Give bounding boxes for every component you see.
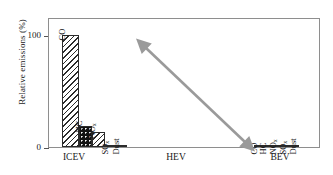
series-label-icev-sox-text: SO [100,144,110,155]
series-label-icev-sox: SOx [101,141,110,155]
emissions-bar-chart: Relative emissions (%) 100 0 CO HC NOx S… [0,0,333,175]
series-label-icev-co: CO [58,29,67,41]
y-tick-label-100: 100 [15,30,41,40]
series-label-icev-hc: HC [75,121,84,133]
series-label-icev-sox-subscript: x [104,141,110,144]
y-axis-label: Relative emissions (%) [17,2,27,122]
y-tick-label-0: 0 [15,142,41,152]
x-axis-label-bev: BEV [256,152,304,162]
series-label-bev-nox-subscript: x [272,139,278,142]
series-label-icev-nox-subscript: x [91,123,97,126]
series-label-icev-nox: NOx [88,123,97,138]
x-axis-label-hev: HEV [152,152,200,162]
series-label-icev-nox-text: NO [87,126,97,138]
series-label-icev-dust: Dust [112,138,121,154]
x-axis-label-icev: ICEV [50,152,98,162]
y-tick-mark-0 [44,148,49,149]
